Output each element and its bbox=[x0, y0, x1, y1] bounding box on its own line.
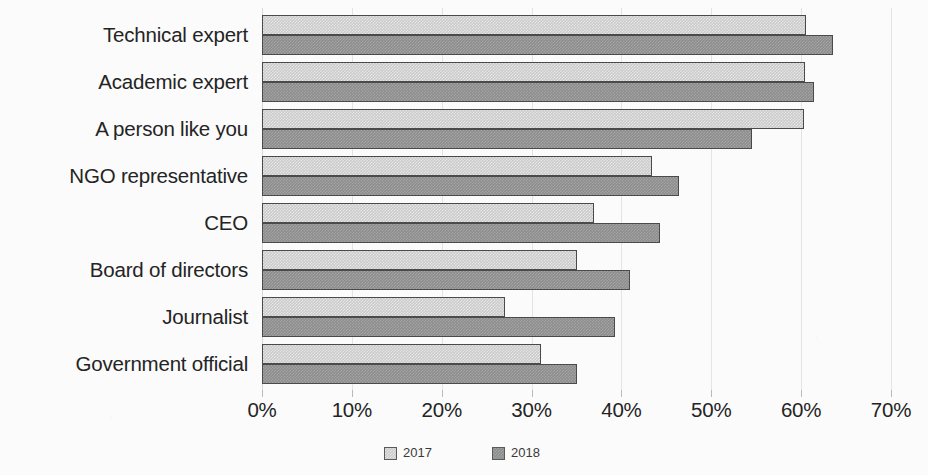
bar-2017 bbox=[262, 344, 541, 364]
category-label: A person like you bbox=[0, 119, 248, 140]
bar-2017 bbox=[262, 203, 594, 223]
legend-swatch-2017-icon bbox=[384, 447, 397, 460]
x-tick-label: 70% bbox=[851, 399, 928, 421]
x-tick-mark bbox=[621, 390, 622, 397]
legend-label: 2018 bbox=[511, 446, 540, 460]
bar-group bbox=[262, 15, 891, 55]
gridline bbox=[891, 8, 892, 390]
x-tick-mark bbox=[262, 390, 263, 397]
horizontal-bar-chart: Technical expertAcademic expertA person … bbox=[0, 0, 928, 475]
legend-item-2018[interactable]: 2018 bbox=[492, 446, 540, 460]
x-tick-label: 20% bbox=[402, 399, 482, 421]
x-tick-mark bbox=[711, 390, 712, 397]
bar-group bbox=[262, 297, 891, 337]
category-label: CEO bbox=[0, 213, 248, 234]
bar-group bbox=[262, 203, 891, 243]
legend-label: 2017 bbox=[403, 446, 432, 460]
category-label: Journalist bbox=[0, 307, 248, 328]
legend-item-2017[interactable]: 2017 bbox=[384, 446, 432, 460]
bar-group bbox=[262, 109, 891, 149]
category-label: Technical expert bbox=[0, 25, 248, 46]
legend-swatch-2018-icon bbox=[492, 447, 505, 460]
bar-2018 bbox=[262, 82, 814, 102]
bar-2017 bbox=[262, 15, 806, 35]
plot-area bbox=[262, 8, 891, 390]
x-tick-label: 50% bbox=[671, 399, 751, 421]
bar-2018 bbox=[262, 35, 833, 55]
x-tick-mark bbox=[442, 390, 443, 397]
x-tick-label: 60% bbox=[761, 399, 841, 421]
bar-group bbox=[262, 62, 891, 102]
category-label: Government official bbox=[0, 354, 248, 375]
bar-2017 bbox=[262, 156, 652, 176]
bar-2017 bbox=[262, 250, 577, 270]
bar-2018 bbox=[262, 270, 630, 290]
bar-2018 bbox=[262, 223, 660, 243]
x-tick-label: 10% bbox=[312, 399, 392, 421]
bar-2018 bbox=[262, 129, 752, 149]
bar-2018 bbox=[262, 176, 679, 196]
x-axis: 0%10%20%30%40%50%60%70% bbox=[262, 390, 891, 430]
bar-2017 bbox=[262, 109, 804, 129]
bar-2017 bbox=[262, 62, 805, 82]
bar-group bbox=[262, 344, 891, 384]
category-label: NGO representative bbox=[0, 166, 248, 187]
x-tick-label: 0% bbox=[222, 399, 302, 421]
chart-legend: 20172018 bbox=[0, 446, 928, 472]
bar-group bbox=[262, 250, 891, 290]
category-axis-labels: Technical expertAcademic expertA person … bbox=[0, 0, 248, 390]
x-tick-label: 30% bbox=[492, 399, 572, 421]
bar-group bbox=[262, 156, 891, 196]
category-label: Academic expert bbox=[0, 72, 248, 93]
x-tick-mark bbox=[891, 390, 892, 397]
x-tick-mark bbox=[352, 390, 353, 397]
bar-2018 bbox=[262, 364, 577, 384]
bar-2018 bbox=[262, 317, 615, 337]
x-tick-mark bbox=[532, 390, 533, 397]
category-label: Board of directors bbox=[0, 260, 248, 281]
x-tick-label: 40% bbox=[581, 399, 661, 421]
bar-2017 bbox=[262, 297, 505, 317]
x-tick-mark bbox=[801, 390, 802, 397]
